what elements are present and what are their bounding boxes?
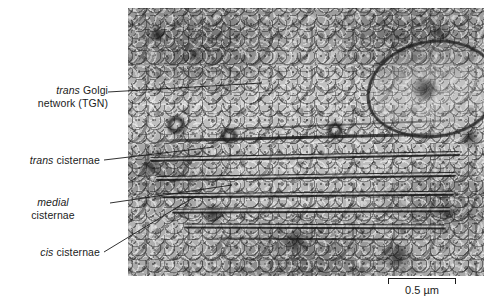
- micrograph-image: [128, 8, 484, 276]
- scale-bar-rule: [388, 278, 456, 279]
- cisterna-band-cis: [184, 224, 446, 230]
- label-tgn-roman: Golgi: [80, 84, 108, 96]
- dense-granule: [278, 230, 312, 252]
- label-trans-cisternae-italic: trans: [30, 154, 54, 166]
- label-trans-cisternae-roman: cisternae: [53, 154, 100, 166]
- scale-bar-label: 0.5 µm: [372, 284, 472, 296]
- dense-granule: [428, 24, 448, 39]
- golgi-electron-micrograph-figure: trans Golgi network (TGN) trans cisterna…: [0, 0, 501, 298]
- label-trans-golgi-network: trans Golgi network (TGN): [0, 84, 108, 109]
- dense-granule: [378, 244, 418, 268]
- label-tgn-line2: network (TGN): [38, 97, 108, 109]
- label-cis-cisternae: cis cisternae: [0, 246, 100, 259]
- label-medial-cisternae: medial cisternae: [0, 196, 106, 221]
- label-medial-line2: cisternae: [31, 209, 75, 221]
- label-medial-italic: medial: [37, 196, 69, 208]
- dense-granule: [458, 128, 482, 148]
- label-trans-cisternae: trans cisternae: [0, 154, 100, 167]
- label-tgn-italic: trans: [56, 84, 80, 96]
- dense-granule: [198, 204, 228, 224]
- coated-vesicle: [164, 114, 188, 136]
- dense-granule: [146, 26, 168, 42]
- label-cis-roman: cisternae: [53, 246, 100, 258]
- tgn-dense-core: [412, 78, 438, 100]
- label-cis-italic: cis: [40, 246, 53, 258]
- dense-granule: [188, 48, 204, 61]
